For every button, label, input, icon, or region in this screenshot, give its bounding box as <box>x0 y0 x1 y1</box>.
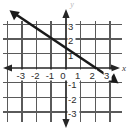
y-tick-label: 2 <box>68 35 73 46</box>
x-tick-label: 2 <box>90 70 95 81</box>
x-tick-label: -3 <box>17 70 25 81</box>
y-tick-label: -3 <box>68 108 76 119</box>
coordinate-plane-chart: -3 -2 -1 0 1 2 3 3 2 1 -1 -2 -3 <box>0 0 132 129</box>
y-tick-label: -2 <box>68 94 76 105</box>
x-tick-label: -2 <box>31 70 39 81</box>
x-axis-label: x <box>121 63 126 73</box>
x-tick-label: 3 <box>104 70 109 81</box>
y-axis-label: y <box>69 0 74 9</box>
y-tick-label: -1 <box>68 79 76 90</box>
x-tick-label-origin: 0 <box>60 70 65 81</box>
y-tick-label: 3 <box>68 21 73 32</box>
graph-figure: -3 -2 -1 0 1 2 3 3 2 1 -1 -2 -3 <box>0 0 132 129</box>
y-tick-label: 1 <box>68 50 73 61</box>
x-tick-label: -1 <box>46 70 54 81</box>
